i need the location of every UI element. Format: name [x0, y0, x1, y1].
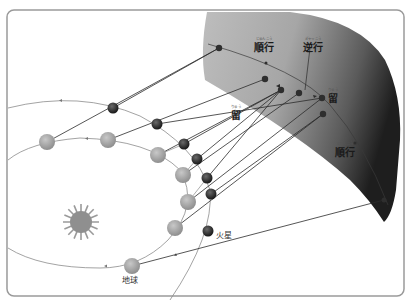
retrograde-motion-diagram: じゅんこう 順行 ぎゃっこう 逆行 りゅう 留 りゅう 留 じゅんこう 順行 火…	[0, 0, 411, 304]
earth-icon	[180, 194, 196, 210]
earth-icon	[100, 132, 116, 148]
label-mars: 火星	[216, 232, 232, 240]
earth-icon	[150, 147, 166, 163]
sky-point-icon	[296, 90, 302, 96]
label-prograde-bottom: じゅんこう 順行	[335, 143, 355, 158]
sky-point-icon	[216, 45, 222, 51]
sky-point-icon	[382, 198, 387, 203]
label-prograde-top: じゅんこう 順行	[254, 38, 274, 53]
mars-icon	[203, 226, 214, 237]
earth-icon	[124, 258, 140, 274]
path-tick-icon	[265, 62, 268, 65]
label-retrograde: ぎゃっこう 逆行	[303, 38, 323, 53]
label-stationary-left: りゅう 留	[231, 106, 241, 121]
mars-icon	[206, 189, 217, 200]
earth-icon	[39, 134, 55, 150]
mars-icon	[152, 119, 163, 130]
mars-icon	[192, 154, 203, 165]
sky-point-icon	[262, 76, 268, 82]
sky-point-icon	[278, 87, 284, 93]
mars-icon	[108, 103, 119, 114]
sky-point-icon	[319, 95, 325, 101]
mars-icon	[202, 173, 213, 184]
earth-icon	[175, 167, 191, 183]
sky-point-icon	[320, 111, 326, 117]
earth-icon	[167, 220, 183, 236]
mars-icon	[179, 139, 190, 150]
label-earth: 地球	[122, 277, 138, 285]
label-stationary-right: りゅう 留	[328, 89, 338, 104]
sun-icon	[63, 204, 99, 240]
